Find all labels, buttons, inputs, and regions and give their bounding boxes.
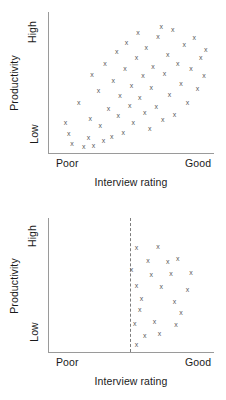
data-point-marker: x (150, 271, 154, 278)
data-point-marker: x (192, 34, 196, 41)
y-tick-high-bottom: High (26, 220, 38, 252)
data-point-marker: x (174, 320, 178, 327)
y-tick-high-top: High (26, 16, 38, 48)
data-point-marker: x (189, 268, 193, 275)
data-point-marker: x (92, 141, 96, 148)
y-axis-label-top: Productivity (8, 48, 20, 118)
data-point-marker: x (130, 82, 134, 89)
x-tick-poor-bottom: Poor (56, 356, 79, 368)
data-point-marker: x (151, 62, 155, 69)
data-point-marker: x (112, 76, 116, 83)
data-point-marker: x (123, 65, 127, 72)
data-point-marker: x (196, 85, 200, 92)
data-point-marker: x (163, 69, 167, 76)
data-point-marker: x (125, 38, 129, 45)
x-axis-label-bottom: Interview rating (48, 375, 214, 387)
data-point-marker: x (138, 306, 142, 313)
data-point-marker: x (189, 65, 193, 72)
data-point-marker: x (156, 32, 160, 39)
data-point-marker: x (169, 269, 173, 276)
data-point-marker: x (77, 99, 81, 106)
data-point-marker: x (135, 54, 139, 61)
data-point-marker: x (166, 51, 170, 58)
chart-restricted-range: Productivity High Low xxxxxxxxxxxxxxxxxx… (0, 200, 226, 400)
data-point-marker: x (67, 130, 71, 137)
y-axis-label-bottom: Productivity (8, 251, 20, 321)
range-restriction-cutoff-line (130, 218, 131, 352)
data-point-marker: x (173, 110, 177, 117)
data-point-marker: x (176, 255, 180, 262)
plot-area-top: xxxxxxxxxxxxxxxxxxxxxxxxxxxxxxxxxxxxxxxx… (48, 12, 214, 154)
data-point-marker: x (97, 86, 101, 93)
data-point-marker: x (150, 83, 154, 90)
data-point-marker: x (145, 44, 149, 51)
data-point-marker: x (146, 256, 150, 263)
data-point-marker: x (186, 286, 190, 293)
data-point-marker: x (153, 318, 157, 325)
data-point-marker: x (159, 23, 163, 30)
data-point-marker: x (117, 111, 121, 118)
data-point-marker: x (171, 25, 175, 32)
data-point-marker: x (87, 134, 91, 141)
data-point-marker: x (133, 319, 137, 326)
data-point-marker: x (118, 92, 122, 99)
data-point-marker: x (140, 295, 144, 302)
data-point-marker: x (136, 28, 140, 35)
data-point-marker: x (168, 90, 172, 97)
data-point-marker: x (143, 331, 147, 338)
data-point-marker: x (176, 59, 180, 66)
data-point-marker: x (90, 71, 94, 78)
data-point-marker: x (64, 118, 68, 125)
chart-unrestricted-range: Productivity High Low xxxxxxxxxxxxxxxxxx… (0, 0, 226, 200)
data-point-marker: x (158, 330, 162, 337)
plot-area-bottom: xxxxxxxxxxxxxxxxxxxxxx (48, 218, 214, 353)
data-point-marker: x (135, 340, 139, 347)
data-point-marker: x (98, 121, 102, 128)
y-tick-low-top: Low (28, 120, 40, 148)
data-point-marker: x (70, 140, 74, 147)
data-point-marker: x (179, 308, 183, 315)
data-point-marker: x (183, 41, 187, 48)
data-point-marker: x (148, 124, 152, 131)
data-point-marker: x (155, 103, 159, 110)
data-point-marker: x (115, 48, 119, 55)
data-point-marker: x (110, 133, 114, 140)
data-point-marker: x (131, 118, 135, 125)
x-axis-label-top: Interview rating (48, 176, 214, 188)
data-point-marker: x (204, 45, 208, 52)
data-point-marker: x (186, 99, 190, 106)
data-point-marker: x (156, 243, 160, 250)
data-point-marker: x (82, 142, 86, 149)
data-point-marker: x (107, 104, 111, 111)
data-point-marker: x (130, 265, 134, 272)
data-point-marker: x (128, 102, 132, 109)
data-point-marker: x (161, 116, 165, 123)
data-point-marker: x (141, 72, 145, 79)
x-tick-good-bottom: Good (185, 356, 211, 368)
y-tick-low-bottom: Low (28, 318, 40, 346)
data-point-marker: x (159, 283, 163, 290)
data-point-marker: x (103, 59, 107, 66)
data-point-marker: x (102, 137, 106, 144)
data-point-marker: x (122, 128, 126, 135)
x-tick-good-top: Good (185, 157, 211, 169)
data-point-marker: x (202, 72, 206, 79)
data-point-marker: x (173, 298, 177, 305)
data-point-marker: x (143, 109, 147, 116)
data-point-marker: x (135, 282, 139, 289)
data-point-marker: x (179, 79, 183, 86)
data-point-marker: x (138, 93, 142, 100)
x-tick-poor-top: Poor (56, 157, 79, 169)
data-point-marker: x (135, 244, 139, 251)
data-point-marker: x (166, 257, 170, 264)
data-point-marker: x (199, 54, 203, 61)
data-point-marker: x (89, 114, 93, 121)
